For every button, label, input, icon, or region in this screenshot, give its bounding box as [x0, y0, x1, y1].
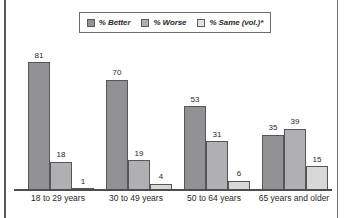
- bar-slot: 70: [106, 38, 128, 190]
- legend-entry-same: % Same (vol.)*: [197, 19, 263, 27]
- legend-label-worse: % Worse: [153, 19, 186, 27]
- bar-value-label: 4: [159, 173, 163, 181]
- bar-better: [184, 106, 206, 190]
- bar-value-label: 81: [35, 52, 44, 60]
- bar-worse: [206, 141, 228, 190]
- bar-slot: 18: [50, 38, 72, 190]
- x-axis-tick-50-to-64: 50 to 64 years: [175, 194, 253, 203]
- x-axis-tick-18-to-29: 18 to 29 years: [19, 194, 97, 203]
- bar-same: [306, 166, 328, 190]
- bar-better: [106, 80, 128, 191]
- bar-worse: [284, 129, 306, 191]
- bar-slot: 81: [28, 38, 50, 190]
- legend-label-same: % Same (vol.)*: [209, 19, 263, 27]
- legend-label-better: % Better: [99, 19, 131, 27]
- bar-value-label: 35: [269, 124, 278, 132]
- bar-group-65-and-older: 35 39 15: [262, 38, 328, 190]
- bar-value-label: 19: [135, 150, 144, 158]
- bar-value-label: 31: [213, 131, 222, 139]
- bar-value-label: 15: [313, 156, 322, 164]
- bar-slot: 31: [206, 38, 228, 190]
- x-axis-tick-65-and-older: 65 years and older: [250, 194, 338, 203]
- bar-slot: 6: [228, 38, 250, 190]
- bar-better: [262, 135, 284, 191]
- x-axis-baseline: [14, 189, 332, 191]
- x-axis-labels: 18 to 29 years 30 to 49 years 50 to 64 y…: [14, 194, 332, 212]
- frame-rule-left: [4, 0, 6, 218]
- bar-slot: 35: [262, 38, 284, 190]
- bar-value-label: 18: [57, 151, 66, 159]
- bar-slot: 19: [128, 38, 150, 190]
- bar-value-label: 6: [237, 170, 241, 178]
- bar-value-label: 70: [113, 69, 122, 77]
- legend-entry-worse: % Worse: [141, 19, 186, 27]
- bar-group-50-to-64: 53 31 6: [184, 38, 250, 190]
- chart-legend: % Better % Worse % Same (vol.)*: [79, 12, 271, 33]
- bar-value-label: 39: [291, 118, 300, 126]
- bar-worse: [50, 162, 72, 191]
- bar-slot: 15: [306, 38, 328, 190]
- chart-figure: % Better % Worse % Same (vol.)* 81 18 1: [0, 0, 348, 218]
- bar-group-30-to-49: 70 19 4: [106, 38, 172, 190]
- legend-swatch-icon-same: [197, 19, 205, 27]
- bar-slot: 1: [72, 38, 94, 190]
- x-axis-tick-30-to-49: 30 to 49 years: [97, 194, 175, 203]
- bar-group-18-to-29: 81 18 1: [28, 38, 94, 190]
- frame-rule-right: [337, 0, 338, 218]
- plot-area: 81 18 1 70 19 4: [14, 38, 332, 190]
- bar-slot: 53: [184, 38, 206, 190]
- legend-entry-better: % Better: [87, 19, 131, 27]
- bar-better: [28, 62, 50, 190]
- legend-swatch-icon-worse: [141, 19, 149, 27]
- bar-worse: [128, 160, 150, 190]
- bar-slot: 4: [150, 38, 172, 190]
- legend-swatch-icon-better: [87, 19, 95, 27]
- bar-slot: 39: [284, 38, 306, 190]
- bar-value-label: 53: [191, 96, 200, 104]
- bar-value-label: 1: [81, 178, 85, 186]
